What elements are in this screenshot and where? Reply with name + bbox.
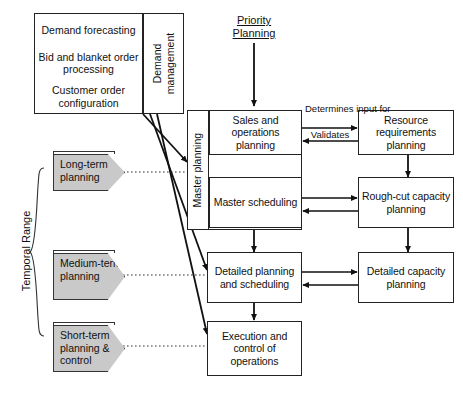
chevron-label: Long-term planning: [60, 158, 108, 183]
diagram-canvas: Demand forecasting Bid and blanket order…: [0, 0, 463, 393]
box-execution-control-operations[interactable]: Execution and control of operations: [207, 321, 302, 376]
box-detailed-capacity-planning[interactable]: Detailed capacity planning: [358, 252, 454, 303]
box-bid-blanket-order[interactable]: Bid and blanket order processing: [34, 46, 143, 81]
chevron-label: Medium-term planning: [60, 257, 122, 282]
chevron-top-edge-medium-term: [53, 250, 115, 253]
chevron-long-term-planning[interactable]: Long-term planning: [53, 154, 125, 191]
chevron-top-edge-long-term: [53, 151, 115, 154]
demand-management-label: Demand management: [143, 13, 184, 114]
box-label: Sales and operations planning: [210, 114, 301, 152]
box-rough-cut-capacity-planning[interactable]: Rough-cut capacity planning: [358, 177, 454, 228]
box-label: Rough-cut capacity planning: [359, 190, 453, 215]
box-label: Execution and control of operations: [208, 330, 301, 368]
box-demand-forecasting[interactable]: Demand forecasting: [34, 13, 143, 47]
box-customer-order-config[interactable]: Customer order configuration: [34, 80, 143, 114]
master-planning-label-text: Master planning: [191, 133, 204, 208]
edge-label-text: Determines input for: [305, 103, 391, 114]
box-label: Demand forecasting: [42, 24, 136, 37]
box-resource-requirements-planning[interactable]: Resource requirements planning: [358, 110, 454, 155]
box-master-scheduling[interactable]: Master scheduling: [209, 177, 302, 228]
box-label: Detailed capacity planning: [359, 265, 453, 290]
edge-label-validates: Validates: [305, 129, 355, 140]
box-label: Resource requirements planning: [359, 114, 453, 152]
box-label: Master scheduling: [212, 196, 300, 209]
master-planning-label: Master planning: [187, 110, 209, 230]
priority-planning-title: Priority Planning: [214, 14, 294, 40]
temporal-range-label-text: Temporal Range: [20, 211, 32, 292]
box-detailed-planning-scheduling[interactable]: Detailed planning and scheduling: [207, 252, 302, 303]
chevron-top-edge-short-term: [53, 322, 115, 325]
demand-management-label-text: Demand management: [152, 33, 177, 94]
edge-label-determines-input-for: Determines input for: [305, 103, 355, 114]
chevron-short-term-planning[interactable]: Short-term planning & control: [53, 325, 125, 372]
priority-planning-title-text: Priority Planning: [233, 14, 276, 39]
box-sales-operations-planning[interactable]: Sales and operations planning: [209, 110, 302, 155]
arrow-dm-to-master-planning: [143, 114, 187, 162]
box-label: Detailed planning and scheduling: [208, 265, 301, 290]
box-label: Customer order configuration: [35, 84, 142, 109]
box-label: Bid and blanket order processing: [35, 51, 142, 76]
chevron-label: Short-term planning & control: [60, 329, 110, 366]
chevron-medium-term-planning[interactable]: Medium-term planning: [53, 253, 125, 300]
edge-label-text: Validates: [311, 129, 349, 140]
